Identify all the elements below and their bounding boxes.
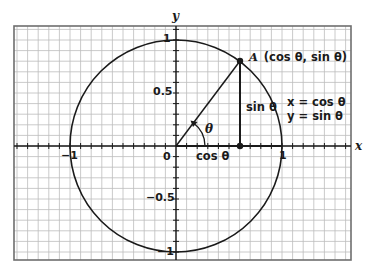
cos-theta-label: cos θ xyxy=(196,149,230,163)
point-foot xyxy=(237,143,243,149)
tick-label-y-neg-0.5: −0.5 xyxy=(146,191,175,204)
angle-arc xyxy=(194,123,206,146)
tick-label-x-neg-1: −1 xyxy=(61,149,78,162)
unit-circle-diagram: y x 1 0.5 0 −0.5 −1 −1 1 A (cos θ, sin θ… xyxy=(0,0,378,271)
sin-theta-label: sin θ xyxy=(246,100,277,114)
tick-label-y-0.5: 0.5 xyxy=(153,85,173,98)
tick-label-origin: 0 xyxy=(163,150,171,163)
x-axis-label: x xyxy=(354,139,363,153)
tick-label-x-1: 1 xyxy=(279,149,287,162)
y-axis-label: y xyxy=(171,9,180,23)
point-a-coords: (cos θ, sin θ) xyxy=(264,50,347,64)
point-a xyxy=(237,58,243,64)
point-a-label: A (cos θ, sin θ) xyxy=(248,50,347,64)
equation-y: y = sin θ xyxy=(287,109,343,123)
tick-label-y-neg-1: −1 xyxy=(157,245,174,258)
tick-label-y-1: 1 xyxy=(163,32,171,45)
equation-x: x = cos θ xyxy=(287,95,346,109)
theta-label: θ xyxy=(205,122,213,136)
point-a-name: A xyxy=(248,50,258,64)
